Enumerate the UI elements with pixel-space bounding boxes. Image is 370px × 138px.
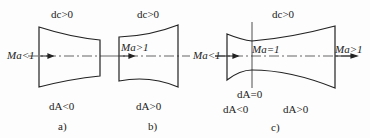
label-c-inlet-mach: Ma<1 — [193, 50, 221, 61]
label-b-inlet-mach: Ma>1 — [121, 42, 149, 53]
caption-a: a) — [58, 121, 67, 132]
label-a-dA: dA<0 — [49, 101, 74, 112]
label-c-dA-diverging: dA>0 — [283, 104, 308, 115]
label-b-dA: dA>0 — [136, 101, 161, 112]
label-c-dA-throat: dA=0 — [237, 89, 262, 100]
label-c-dA-converging: dA<0 — [223, 104, 248, 115]
nozzle-diagram-figure: dc>0 Ma<1 dA<0 a) dc>0 Ma>1 dA>0 b) dc>0… — [0, 0, 370, 138]
label-b-dc: dc>0 — [137, 9, 159, 20]
caption-b: b) — [148, 121, 157, 132]
caption-c: c) — [271, 122, 280, 133]
diverging-nozzle-b — [110, 25, 190, 87]
laval-nozzle-c — [215, 22, 357, 88]
nozzle-shapes — [0, 0, 370, 138]
label-c-dc: dc>0 — [272, 9, 294, 20]
label-a-inlet-mach: Ma<1 — [7, 50, 35, 61]
label-c-throat-mach: Ma=1 — [252, 44, 280, 55]
converging-nozzle-a — [28, 27, 112, 87]
label-a-dc: dc>0 — [51, 9, 73, 20]
label-c-outlet-mach: Ma>1 — [335, 44, 363, 55]
